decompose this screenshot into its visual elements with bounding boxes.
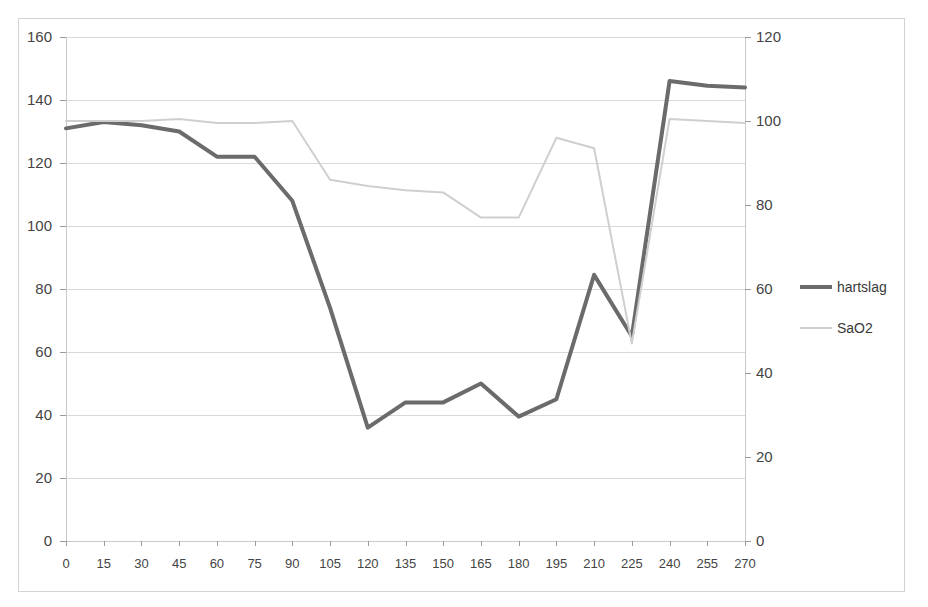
x-tick-165 [481,541,482,546]
x-axis-label-105: 105 [310,556,350,571]
gridline-140 [66,100,745,101]
x-axis-label-30: 30 [121,556,161,571]
x-axis-label-210: 210 [574,556,614,571]
left-tick-140 [60,100,66,101]
left-axis-label-140: 140 [0,92,52,107]
gridline-160 [66,37,745,38]
x-axis-label-150: 150 [423,556,463,571]
x-tick-60 [217,541,218,546]
x-axis-label-225: 225 [612,556,652,571]
gridline-80 [66,289,745,290]
left-tick-120 [60,163,66,164]
legend-item-sao2[interactable]: SaO2 [800,317,910,339]
x-axis-label-165: 165 [461,556,501,571]
right-tick-100 [745,121,751,122]
x-tick-30 [141,541,142,546]
x-tick-195 [556,541,557,546]
right-axis-label-80: 80 [756,197,773,212]
gridline-60 [66,352,745,353]
left-axis-label-20: 20 [0,470,52,485]
gridline-20 [66,478,745,479]
left-axis-line [66,37,67,541]
right-tick-40 [745,373,751,374]
left-tick-60 [60,352,66,353]
right-tick-60 [745,289,751,290]
x-axis-label-15: 15 [84,556,124,571]
left-axis-label-40: 40 [0,407,52,422]
right-axis-label-100: 100 [756,113,781,128]
left-axis-label-60: 60 [0,344,52,359]
left-axis-label-100: 100 [0,218,52,233]
right-tick-120 [745,37,751,38]
gridline-40 [66,415,745,416]
left-axis-label-0: 0 [0,533,52,548]
right-axis-label-60: 60 [756,281,773,296]
x-tick-150 [443,541,444,546]
x-tick-210 [594,541,595,546]
right-axis-label-40: 40 [756,365,773,380]
x-axis-label-270: 270 [725,556,765,571]
x-tick-225 [632,541,633,546]
left-tick-100 [60,226,66,227]
left-tick-20 [60,478,66,479]
x-tick-90 [292,541,293,546]
x-tick-255 [707,541,708,546]
left-axis-label-80: 80 [0,281,52,296]
x-axis-label-120: 120 [348,556,388,571]
plot-grid [66,37,745,541]
right-tick-80 [745,205,751,206]
x-tick-180 [519,541,520,546]
right-tick-20 [745,457,751,458]
left-tick-160 [60,37,66,38]
chart-legend: hartslagSaO2 [800,276,910,358]
x-tick-0 [66,541,67,546]
x-axis-label-0: 0 [46,556,86,571]
x-axis-label-255: 255 [687,556,727,571]
legend-item-hartslag[interactable]: hartslag [800,276,910,298]
x-tick-240 [670,541,671,546]
x-tick-135 [406,541,407,546]
left-tick-40 [60,415,66,416]
x-tick-75 [255,541,256,546]
legend-label-sao2: SaO2 [837,320,873,336]
right-axis-label-20: 20 [756,449,773,464]
x-axis-label-45: 45 [159,556,199,571]
x-tick-270 [745,541,746,546]
x-tick-120 [368,541,369,546]
x-tick-105 [330,541,331,546]
left-tick-80 [60,289,66,290]
legend-label-hartslag: hartslag [837,279,887,295]
x-axis-label-195: 195 [536,556,576,571]
gridline-100 [66,226,745,227]
gridline-120 [66,163,745,164]
legend-swatch-hartslag [800,285,832,289]
x-axis-label-135: 135 [386,556,426,571]
x-axis-label-75: 75 [235,556,275,571]
left-axis-label-160: 160 [0,29,52,44]
x-axis-label-60: 60 [197,556,237,571]
chart-figure: 020406080100120140160 020406080100120 01… [0,0,928,607]
x-tick-45 [179,541,180,546]
legend-swatch-sao2 [800,327,832,329]
left-axis-label-120: 120 [0,155,52,170]
x-axis-label-240: 240 [650,556,690,571]
x-axis-label-180: 180 [499,556,539,571]
x-tick-15 [104,541,105,546]
x-axis-label-90: 90 [272,556,312,571]
right-axis-label-0: 0 [756,533,764,548]
right-axis-label-120: 120 [756,29,781,44]
